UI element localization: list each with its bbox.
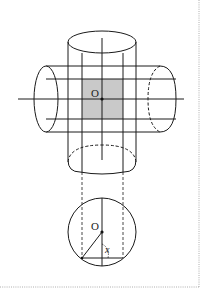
label-o-bottom: O xyxy=(91,220,99,232)
center-point-o xyxy=(100,97,103,100)
label-o-top: O xyxy=(91,87,99,99)
intersecting-cylinders-diagram: O O x xyxy=(0,0,208,296)
radius xyxy=(82,232,102,258)
center-point-o-bottom xyxy=(100,230,103,233)
vertical-cylinder-bottom-front-arc xyxy=(68,160,136,174)
label-angle-x: x xyxy=(104,244,110,255)
chord-endpoint xyxy=(81,257,84,260)
